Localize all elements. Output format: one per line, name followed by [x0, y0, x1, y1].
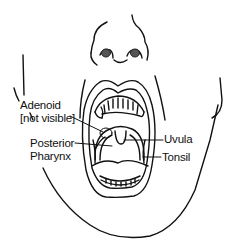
label-uvula-text: Uvula [164, 133, 192, 146]
label-uvula: Uvula [164, 133, 192, 146]
right-cheek-line [155, 76, 165, 120]
tonsil-left [93, 140, 95, 163]
left-nostril [102, 49, 111, 57]
adenoid-region [100, 128, 112, 138]
label-adenoid-line2: [not visible] [20, 112, 75, 125]
label-adenoid-line1: Adenoid [20, 99, 75, 112]
label-tonsil-text: Tonsil [162, 151, 190, 164]
label-posterior-pharynx-line1: Posterior [30, 137, 74, 150]
right-nostril [131, 49, 140, 57]
uvula [115, 131, 126, 144]
label-adenoid: Adenoid [not visible] [20, 99, 75, 125]
label-tonsil: Tonsil [162, 151, 190, 164]
label-posterior-pharynx-line2: Pharynx [30, 150, 74, 163]
tongue [92, 161, 148, 166]
mouth-anatomy-diagram [0, 0, 238, 251]
adenoid-leader [70, 116, 103, 132]
label-posterior-pharynx: Posterior Pharynx [30, 137, 74, 163]
lower-teeth [100, 176, 140, 186]
nose [91, 15, 148, 65]
upper-teeth [95, 96, 144, 118]
